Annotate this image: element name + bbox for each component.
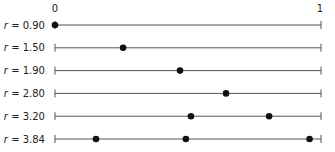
chart-row: r = 3.20 [4, 111, 321, 122]
row-label: r = 2.80 [4, 88, 45, 99]
data-point [266, 113, 273, 120]
data-point [120, 45, 127, 52]
axis-tick-label-1: 1 [317, 3, 323, 14]
chart-row: r = 1.90 [4, 65, 321, 76]
data-point [223, 90, 230, 97]
row-label: r = 0.90 [4, 20, 45, 31]
chart-row: r = 2.80 [4, 88, 321, 99]
data-point [188, 113, 195, 120]
row-label: r = 1.50 [4, 42, 45, 53]
chart-row: r = 3.84 [4, 134, 321, 145]
data-point [306, 136, 313, 143]
chart-row: r = 1.50 [4, 42, 321, 53]
data-point [93, 136, 100, 143]
chart-rows: r = 0.90r = 1.50r = 1.90r = 2.80r = 3.20… [4, 20, 321, 145]
row-label: r = 3.84 [4, 134, 45, 145]
data-point [183, 136, 190, 143]
bifurcation-dot-chart: 0 1 r = 0.90r = 1.50r = 1.90r = 2.80r = … [0, 0, 335, 152]
axis-tick-label-0: 0 [52, 3, 58, 14]
data-point [177, 67, 184, 74]
row-label: r = 1.90 [4, 65, 45, 76]
data-point [52, 22, 59, 29]
chart-row: r = 0.90 [4, 20, 321, 31]
row-label: r = 3.20 [4, 111, 45, 122]
